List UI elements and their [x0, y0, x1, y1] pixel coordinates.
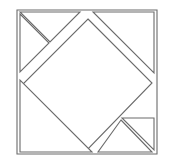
tangram-pieces-group: Outer SquareCenter DiamondTop Left Upper… [17, 10, 157, 154]
tangram-figure: Tangram Square Dissection Outer SquareCe… [0, 0, 169, 166]
